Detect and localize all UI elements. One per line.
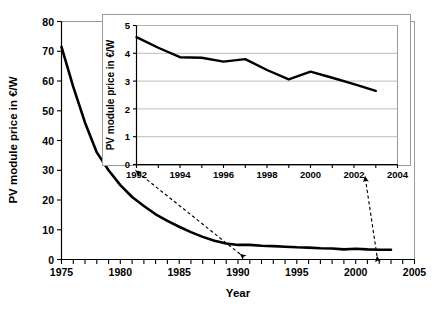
- x-tick-label: 2000: [300, 169, 321, 180]
- y-tick-label: 60: [42, 75, 54, 87]
- x-tick-label: 1996: [213, 169, 234, 180]
- x-tick-label: 2002: [343, 169, 364, 180]
- y-tick-label: 0: [48, 254, 54, 266]
- x-tick-label: 1975: [50, 266, 74, 278]
- pv-module-price-figure: 01020304050607080 1975198019851990199520…: [0, 0, 440, 311]
- y-tick-label: 3: [125, 76, 130, 87]
- x-tick-label: 1998: [256, 169, 277, 180]
- y-tick-label: 5: [125, 20, 131, 31]
- y-tick-label: 50: [42, 105, 54, 117]
- x-tick-label: 1992: [126, 169, 147, 180]
- x-tick-label: 2004: [387, 169, 409, 180]
- y-tick-label: 40: [42, 135, 54, 147]
- x-tick-label: 2005: [403, 266, 427, 278]
- inset-y-axis-label: PV module price in €/W: [105, 39, 116, 150]
- x-tick-label: 1995: [285, 266, 309, 278]
- y-tick-label: 70: [42, 45, 54, 57]
- x-tick-label: 1980: [109, 266, 133, 278]
- x-tick-label: 1990: [226, 266, 250, 278]
- y-tick-label: 10: [42, 224, 54, 236]
- inset-chart: 012345 1992199419961998200020022004 PV m…: [102, 14, 411, 180]
- main-y-tick-labels: 01020304050607080: [42, 16, 54, 266]
- x-tick-label: 2000: [344, 266, 368, 278]
- y-tick-label: 1: [125, 131, 131, 142]
- y-tick-label: 80: [42, 16, 54, 28]
- main-x-axis-label: Year: [226, 287, 251, 299]
- y-tick-label: 2: [125, 104, 130, 115]
- y-tick-label: 30: [42, 164, 54, 176]
- main-y-axis-label: PV module price in €/W: [7, 76, 19, 203]
- inset-panel-background: [102, 14, 411, 166]
- y-tick-label: 4: [125, 48, 131, 59]
- chart-canvas: 01020304050607080 1975198019851990199520…: [0, 0, 440, 311]
- x-tick-label: 1994: [169, 169, 191, 180]
- y-tick-label: 20: [42, 194, 54, 206]
- x-tick-label: 1985: [168, 266, 192, 278]
